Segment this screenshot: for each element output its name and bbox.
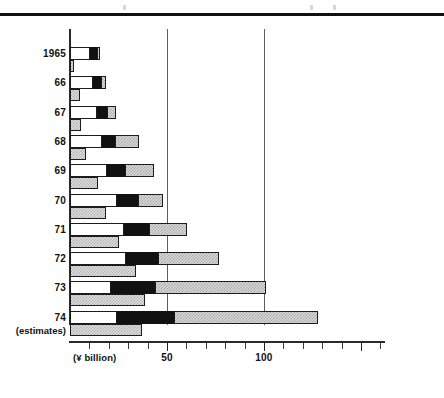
bar-segment-66-3 <box>101 76 106 89</box>
axis-tick-160 <box>380 343 381 349</box>
lower-bar-69 <box>70 177 98 189</box>
bar-segment-69-1 <box>70 164 107 177</box>
axis-tick-20 <box>109 343 110 349</box>
bar-segment-1965-1 <box>70 47 90 60</box>
year-label-68: 68 <box>54 136 66 147</box>
axis-tick-10 <box>89 343 90 349</box>
bar-segment-68-2 <box>102 135 115 148</box>
year-label-73: 73 <box>54 282 66 293</box>
lower-bar-71 <box>70 236 119 248</box>
bar-segment-68-1 <box>70 135 102 148</box>
year-label-71: 71 <box>54 224 66 235</box>
bar-segment-73-1 <box>70 281 111 294</box>
bar-segment-74-1 <box>70 311 117 324</box>
lower-bar-70 <box>70 207 106 219</box>
lower-bar-67 <box>70 119 81 131</box>
lower-bar-74 <box>70 324 142 336</box>
axis-tick-60 <box>186 343 187 349</box>
year-label-69: 69 <box>54 165 66 176</box>
bar-segment-67-1 <box>70 106 97 119</box>
axis-tick-100 <box>264 343 265 351</box>
axis-tick-90 <box>245 343 246 349</box>
bar-segment-72-3 <box>158 252 219 265</box>
scan-artifact-speck <box>123 5 126 10</box>
bar-segment-71-2 <box>124 223 149 236</box>
axis-tick-label-100: 100 <box>255 352 272 363</box>
bar-segment-74-2 <box>117 311 173 324</box>
lower-bar-66 <box>70 89 80 101</box>
axis-tick-140 <box>342 343 343 349</box>
year-label-66: 66 <box>54 77 66 88</box>
year-label-74: 74 <box>54 312 66 323</box>
year-label-67: 67 <box>54 107 66 118</box>
bar-segment-66-2 <box>93 76 101 89</box>
axis-tick-50 <box>167 343 168 351</box>
bar-segment-71-3 <box>149 223 187 236</box>
axis-tick-150 <box>361 343 362 351</box>
year-label-1965: 1965 <box>43 48 66 59</box>
year-label-72: 72 <box>54 253 66 264</box>
bar-segment-73-3 <box>155 281 266 294</box>
bar-segment-1965-2 <box>90 47 97 60</box>
axis-tick-label-50: 50 <box>161 352 173 363</box>
bar-segment-70-1 <box>70 194 117 207</box>
bar-segment-69-2 <box>107 164 125 177</box>
bar-segment-67-3 <box>107 106 116 119</box>
axis-tick-120 <box>303 343 304 349</box>
axis-tick-70 <box>206 343 207 349</box>
axis-tick-80 <box>225 343 226 349</box>
lower-bar-73 <box>70 294 145 306</box>
bar-segment-70-3 <box>138 194 164 207</box>
axis-tick-130 <box>322 343 323 349</box>
bar-segment-71-1 <box>70 223 124 236</box>
bar-segment-70-2 <box>117 194 138 207</box>
bar-segment-69-3 <box>125 164 154 177</box>
axis-tick-110 <box>283 343 284 349</box>
value-axis-baseline <box>69 341 385 343</box>
bar-segment-72-1 <box>70 252 126 265</box>
bar-segment-67-2 <box>97 106 107 119</box>
bar-segment-1965-3 <box>97 47 100 60</box>
year-label-70: 70 <box>54 195 66 206</box>
year-note-74: (estimates) <box>16 325 66 336</box>
lower-bar-72 <box>70 265 136 277</box>
axis-tick-30 <box>128 343 129 349</box>
top-horizontal-rule <box>0 13 444 16</box>
scan-artifact-speck <box>310 5 313 10</box>
scan-artifact-speck <box>333 5 336 10</box>
bar-segment-66-1 <box>70 76 93 89</box>
bar-segment-74-3 <box>174 311 319 324</box>
axis-unit-label: (¥ billion) <box>73 352 116 363</box>
lower-bar-1965 <box>70 60 74 72</box>
lower-bar-68 <box>70 148 86 160</box>
category-axis-labels: 1965666768697071727374(estimates) <box>0 0 66 398</box>
axis-tick-40 <box>148 343 149 349</box>
bar-segment-72-2 <box>126 252 158 265</box>
bar-segment-73-2 <box>111 281 155 294</box>
bar-segment-68-3 <box>115 135 139 148</box>
